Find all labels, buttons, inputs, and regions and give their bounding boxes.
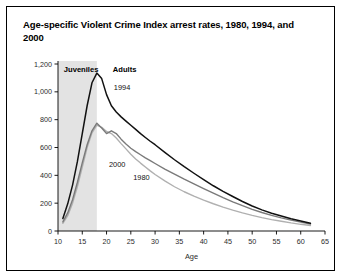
series-line-2000 [63,123,311,224]
series-label-2000: 2000 [109,160,125,169]
y-tick-label: 400 [40,171,52,180]
x-tick-label: 60 [297,237,305,246]
x-tick-label: 50 [248,237,256,246]
x-axis-title: Age [185,252,198,261]
x-tick-label: 20 [103,237,111,246]
series-label-1994: 1994 [114,83,130,92]
x-tick-label: 10 [54,237,62,246]
y-tick-label: 1,200 [34,60,52,69]
x-tick-label: 15 [78,237,86,246]
series-line-1980 [63,125,311,225]
chart-series-lines [63,73,311,225]
chart-plot-area: 02004006008001,0001,20010152025303540455… [7,7,335,271]
series-label-1980: 1980 [133,173,149,182]
x-tick-label: 30 [151,237,159,246]
y-tick-label: 200 [40,199,52,208]
x-tick-label: 65 [321,237,329,246]
series-line-1994 [63,73,311,223]
adults-label: Adults [113,65,137,74]
y-tick-label: 0 [48,227,52,236]
y-tick-label: 800 [40,115,52,124]
x-tick-label: 40 [200,237,208,246]
x-tick-label: 55 [272,237,280,246]
x-tick-label: 45 [224,237,232,246]
y-tick-label: 1,000 [34,87,52,96]
figure-container: Age-specific Violent Crime Index arrest … [6,6,335,271]
juveniles-label: Juveniles [64,65,99,74]
x-tick-label: 25 [127,237,135,246]
y-tick-label: 600 [40,143,52,152]
x-tick-label: 35 [175,237,183,246]
chart-svg: 02004006008001,0001,20010152025303540455… [7,7,335,271]
